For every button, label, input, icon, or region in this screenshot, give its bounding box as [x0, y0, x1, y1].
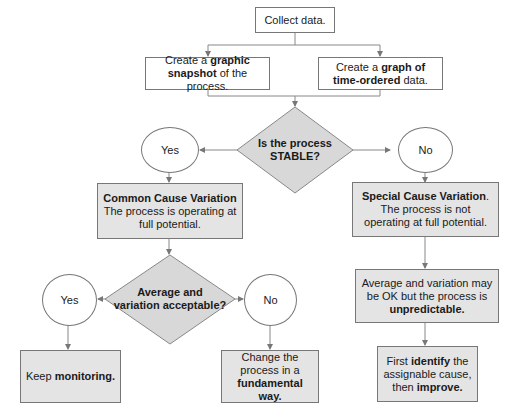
time-ordered-graph-box: Create a graph of time-ordered data. [318, 57, 443, 90]
decision-stable-label: Is the process STABLE? [245, 135, 345, 165]
yes-circle-stable: Yes [141, 127, 199, 173]
collect-data-text: Collect data. [264, 14, 325, 27]
no-circle-stable: No [398, 127, 453, 173]
decision-acceptable-label: Average and variation acceptable? [110, 284, 230, 314]
collect-data-box: Collect data. [255, 7, 335, 33]
change-process-box: Change the process in a fundamental way. [221, 350, 319, 403]
yes-circle-acceptable: Yes [42, 274, 97, 326]
identify-cause-box: First identify the assignable cause, the… [377, 346, 478, 402]
no-circle-acceptable: No [244, 274, 297, 326]
unpredictable-box: Average and variation may be OK but the … [355, 269, 499, 323]
keep-monitoring-box: Keep monitoring. [20, 350, 121, 403]
common-cause-box: Common Cause Variation The process is op… [97, 183, 243, 239]
graphic-snapshot-box: Create a graphic snapshot of the process… [145, 57, 270, 90]
special-cause-box: Special Cause Variation. The process is … [352, 182, 499, 237]
